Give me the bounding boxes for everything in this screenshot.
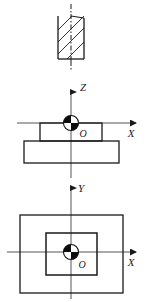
- z-axis-label: Z: [80, 81, 87, 93]
- origin-quadrant-upper-left: [64, 116, 72, 124]
- section-top-edge: [71, 16, 84, 18]
- section-view-group: [48, 4, 92, 76]
- origin-label-top: O: [78, 259, 85, 270]
- origin-quadrant-upper-left: [64, 245, 72, 253]
- hatch-line: [50, 34, 92, 76]
- x-axis-label-top: X: [127, 256, 136, 268]
- coordinate-origin-symbol-top: [64, 245, 79, 260]
- x-axis-label-front: X: [127, 127, 136, 139]
- origin-quadrant-lower-right: [71, 123, 79, 131]
- origin-label-front: O: [79, 128, 86, 139]
- section-hatching: [48, 8, 92, 76]
- technical-drawing-canvas: Z X O Y X O: [0, 0, 147, 302]
- origin-quadrant-lower-right: [71, 252, 79, 260]
- hatch-line: [48, 8, 80, 40]
- coordinate-origin-symbol-front: [64, 116, 79, 131]
- top-view-group: Y X O: [7, 182, 136, 299]
- y-axis-label: Y: [78, 182, 86, 194]
- three-view-projection-svg: Z X O Y X O: [0, 0, 147, 302]
- front-view-group: Z X O: [17, 81, 136, 178]
